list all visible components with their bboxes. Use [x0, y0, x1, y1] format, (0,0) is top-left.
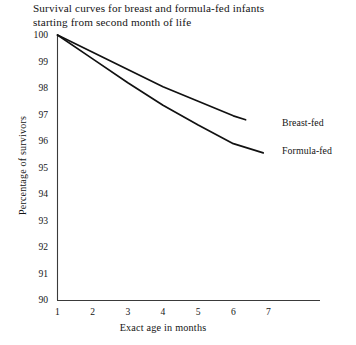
x-tick-label: 7: [259, 306, 279, 317]
series-label-formula-fed: Formula-fed: [282, 145, 332, 156]
x-tick-label: 6: [223, 306, 243, 317]
plot-area: [0, 0, 356, 345]
y-axis-title: Percentage of survivors: [17, 96, 28, 236]
y-tick-label: 100: [22, 29, 48, 40]
x-tick-label: 5: [188, 306, 208, 317]
x-axis-title: Exact age in months: [57, 322, 269, 333]
x-tick-label: 1: [48, 306, 68, 317]
series-label-breast-fed: Breast-fed: [282, 117, 324, 128]
y-tick-label: 99: [22, 56, 48, 67]
y-tick-label: 98: [22, 82, 48, 93]
y-tick-label: 92: [22, 241, 48, 252]
series-line-breast-fed: [58, 35, 246, 120]
y-tick-label: 91: [22, 268, 48, 279]
x-tick-label: 2: [83, 306, 103, 317]
series-line-formula-fed: [58, 35, 264, 153]
y-tick-label: 90: [22, 294, 48, 305]
chart-figure: Survival curves for breast and formula-f…: [0, 0, 356, 345]
x-tick-label: 3: [118, 306, 138, 317]
x-tick-label: 4: [153, 306, 173, 317]
